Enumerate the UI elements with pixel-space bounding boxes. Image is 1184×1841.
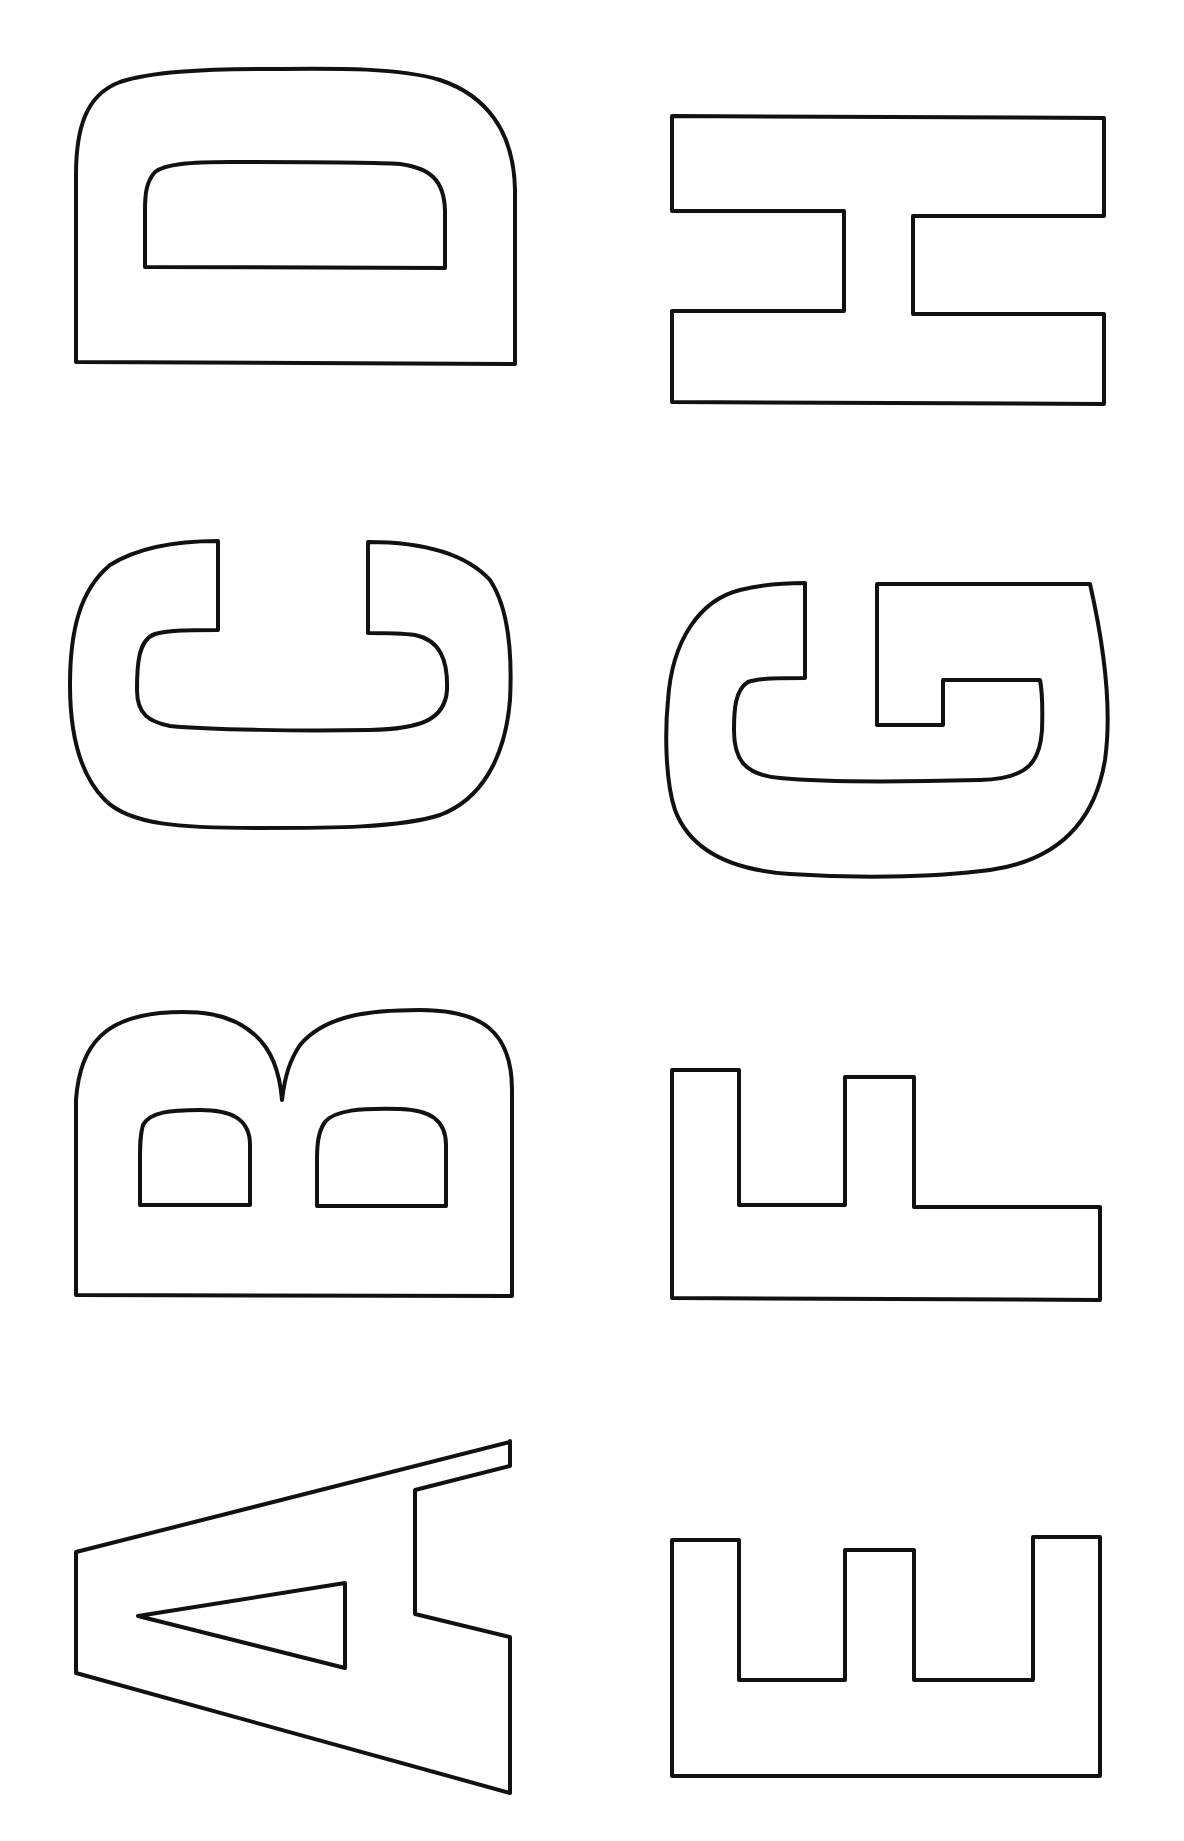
letter-e-outline [672,1537,1100,1776]
letter-sheet: Block letter outlines [0,0,1184,1841]
letter-d-outline [76,69,515,364]
letter-a-outline [76,1441,510,1793]
letter-c-outline [70,541,511,828]
letter-b-outline [76,1010,512,1296]
letter-g-outline [666,583,1107,877]
letter-f-outline [672,1070,1100,1300]
letter-h-outline [672,116,1104,404]
